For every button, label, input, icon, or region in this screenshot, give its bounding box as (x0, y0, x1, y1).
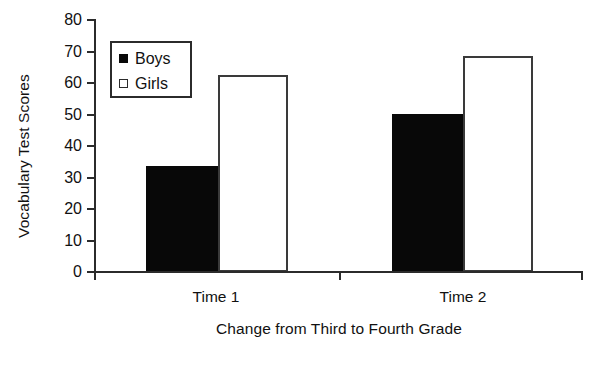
x-tick-label-time-1: Time 1 (156, 288, 276, 306)
y-tick-label-50: 50 (38, 107, 82, 123)
x-tick-mark-left (94, 272, 96, 280)
x-axis-title: Change from Third to Fourth Grade (95, 320, 583, 338)
legend-label-girls: Girls (135, 76, 168, 92)
open-square-icon (119, 79, 128, 88)
bar-girls-time-2 (463, 56, 533, 272)
y-tick-label-20: 20 (38, 201, 82, 217)
legend-label-boys: Boys (135, 51, 171, 67)
y-axis-title: Vocabulary Test Scores (12, 11, 36, 301)
y-tick-label-40: 40 (38, 138, 82, 154)
bar-boys-time-2 (392, 114, 463, 272)
filled-square-icon (119, 54, 128, 63)
y-tick-label-70: 70 (38, 44, 82, 60)
y-tick-label-0: 0 (38, 264, 82, 280)
chart-legend: Boys Girls (110, 41, 192, 98)
bar-boys-time-1 (146, 166, 218, 272)
y-tick-label-80: 80 (38, 12, 82, 28)
bar-chart-figure: Vocabulary Test Scores 80 70 60 50 40 30… (0, 0, 613, 369)
y-axis-line (94, 19, 96, 273)
x-tick-mark-middle (339, 272, 341, 280)
legend-row-boys: Boys (119, 46, 190, 71)
legend-row-girls: Girls (119, 71, 190, 96)
y-tick-label-10: 10 (38, 233, 82, 249)
bar-girls-time-1 (218, 75, 288, 272)
x-tick-label-time-2: Time 2 (403, 288, 523, 306)
y-tick-label-60: 60 (38, 75, 82, 91)
x-tick-mark-right (581, 272, 583, 280)
y-tick-label-30: 30 (38, 170, 82, 186)
